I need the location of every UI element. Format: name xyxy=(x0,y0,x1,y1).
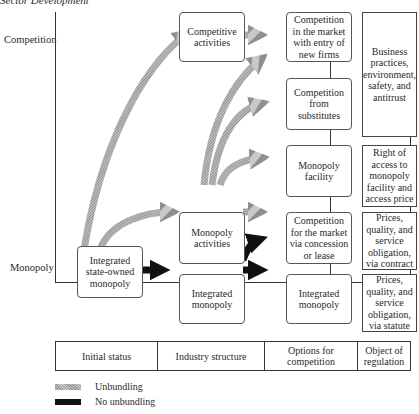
stage-industry-structure: Industry structure xyxy=(158,342,265,370)
node-monopoly-activities: Monopoly activities xyxy=(179,212,245,264)
arrow-to-monopoly-activities xyxy=(100,212,170,250)
node-integrated-monopoly-right: Integrated monopoly xyxy=(286,274,352,324)
legend-unbundling: Unbundling xyxy=(55,381,143,392)
stage-object-regulation: Object of regulation xyxy=(358,342,410,370)
node-competitive-activities: Competitive activities xyxy=(179,12,245,62)
legend-label: No unbundling xyxy=(95,396,155,407)
node-monopoly-facility: Monopoly facility xyxy=(286,145,352,197)
node-competition-substitutes: Competition from substitutes xyxy=(286,78,352,130)
regulation-statute: Prices, quality, and service obligation,… xyxy=(362,274,417,332)
unbundling-swatch-icon xyxy=(55,384,81,390)
node-competition-entry: Competition in the market with entry of … xyxy=(286,12,352,62)
regulation-business: Business practices, environment, safety,… xyxy=(362,12,417,137)
regulation-contract: Prices, quality, and service obligation,… xyxy=(362,212,417,270)
no-unbundling-swatch-icon xyxy=(55,399,81,405)
node-integrated-state-owned: Integrated state-owned monopoly xyxy=(77,246,143,298)
legend-no-unbundling: No unbundling xyxy=(55,396,155,407)
stage-options-competition: Options for competition xyxy=(265,342,358,370)
legend-label: Unbundling xyxy=(95,381,143,392)
regulation-access: Right of access to monopoly facility and… xyxy=(362,145,417,207)
node-competition-concession: Competition for the market via concessio… xyxy=(286,212,352,264)
node-integrated-monopoly-mid: Integrated monopoly xyxy=(179,274,245,324)
stage-labels: Initial status Industry structure Option… xyxy=(55,341,411,371)
stage-initial-status: Initial status xyxy=(56,342,158,370)
